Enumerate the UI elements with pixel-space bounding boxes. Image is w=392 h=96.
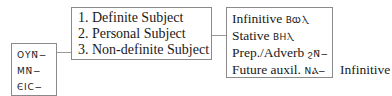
predicate-coptic: ΒⲰⲖ [286, 15, 309, 25]
subject-type: 2. Personal Subject [78, 26, 211, 42]
predicate-coptic: ΒΗⲖ [273, 32, 293, 42]
subject-type: 3. Non-definite Subject [78, 42, 211, 58]
predicate-coptic: ϩΝ̄− [307, 49, 328, 59]
predicate-types-box: Infinitive ΒⲰⲖ Stative ΒΗⲖ Prep./Adverbϩ… [226, 7, 333, 78]
predicate-type: Future auxil. ΝⲀ− [232, 61, 332, 78]
predicate-type: Stative ΒΗⲖ [232, 27, 332, 44]
predicate-label: Prep./Adverb [232, 45, 304, 60]
predicate-coptic: ΝⲀ− [304, 66, 326, 76]
predicate-type: Infinitive ΒⲰⲖ [232, 10, 332, 27]
predicate-label: Infinitive [232, 11, 282, 26]
subject-form: ΜΝ̄− [17, 63, 56, 79]
predicate-type: Prep./AdverbϩΝ̄− [232, 44, 332, 61]
connector-mid-right [212, 35, 226, 36]
predicate-label: Stative [232, 28, 270, 43]
subject-forms-box: ΟΥΝ̄− ΜΝ̄− ЄΙС− [11, 43, 57, 96]
predicate-label: Future auxil. [232, 62, 301, 77]
subject-form: ЄΙС− [17, 79, 56, 95]
connector-left-mid [57, 52, 71, 53]
infinitive-label: Infinitive [340, 61, 390, 78]
subject-type: 1. Definite Subject [78, 10, 211, 26]
subject-form: ΟΥΝ̄− [17, 47, 56, 63]
subject-types-box: 1. Definite Subject 2. Personal Subject … [71, 7, 212, 60]
